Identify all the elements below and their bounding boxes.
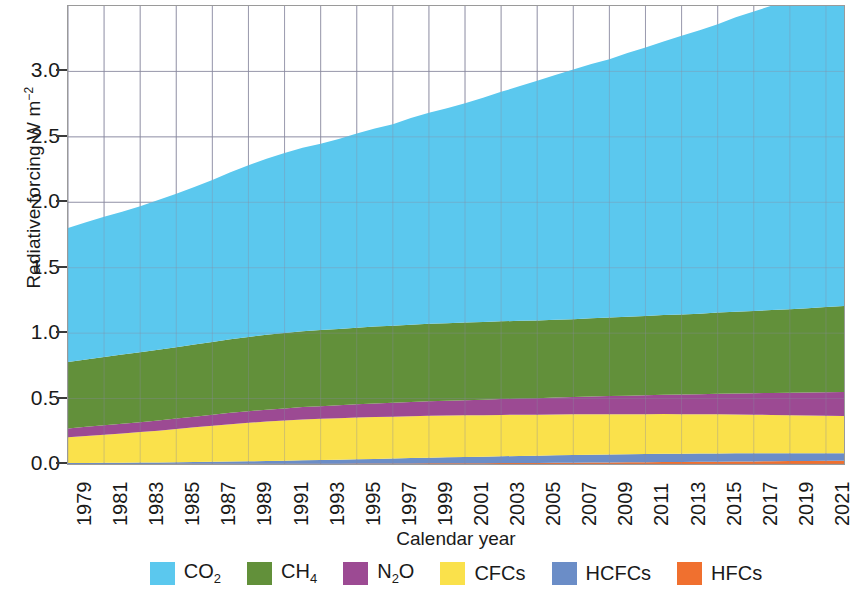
x-tick-label: 1985 xyxy=(182,482,202,527)
legend-swatch-icon xyxy=(552,562,577,585)
legend-swatch-icon xyxy=(677,562,702,585)
y-tick-label: 1.5 xyxy=(14,256,60,277)
legend-label: CO2 xyxy=(184,561,221,585)
y-tick-mark xyxy=(56,331,67,333)
x-tick-label: 1997 xyxy=(399,482,419,527)
x-tick-label: 2009 xyxy=(615,482,635,527)
stacked-area-svg xyxy=(68,6,844,464)
plot-area xyxy=(67,5,845,465)
legend-item-n2o[interactable]: N2O xyxy=(343,561,414,585)
y-tick-mark xyxy=(56,135,67,137)
y-axis-tick-labels: 0.00.51.01.52.02.53.0 xyxy=(0,0,60,591)
legend-item-hcfcs[interactable]: HCFCs xyxy=(552,562,652,585)
x-axis-title-text: Calendar year xyxy=(396,528,515,549)
x-tick-label: 2001 xyxy=(471,482,491,527)
x-axis-tick-labels: 1979198119831985198719891991199319951997… xyxy=(67,468,845,530)
x-tick-label: 1991 xyxy=(291,482,311,527)
x-tick-label: 2015 xyxy=(724,482,744,527)
x-tick-label: 2005 xyxy=(543,482,563,527)
legend-label: CFCs xyxy=(474,563,525,583)
legend-swatch-icon xyxy=(247,562,272,585)
y-tick-label: 2.0 xyxy=(14,190,60,211)
legend-item-cfcs[interactable]: CFCs xyxy=(440,562,525,585)
y-tick-label: 0.5 xyxy=(14,387,60,408)
x-tick-label: 2017 xyxy=(760,482,780,527)
legend-label: HCFCs xyxy=(586,563,652,583)
legend-label: N2O xyxy=(377,561,414,585)
y-tick-label: 1.0 xyxy=(14,321,60,342)
legend-swatch-icon xyxy=(150,562,175,585)
legend-label: CH4 xyxy=(281,561,317,585)
x-tick-label: 1999 xyxy=(435,482,455,527)
x-tick-label: 1993 xyxy=(327,482,347,527)
x-tick-label: 2011 xyxy=(651,483,671,526)
x-tick-label: 2021 xyxy=(832,482,852,527)
x-tick-label: 1987 xyxy=(218,482,238,527)
legend-swatch-icon xyxy=(343,562,368,585)
y-tick-mark xyxy=(56,69,67,71)
legend-label: HFCs xyxy=(711,563,762,583)
x-tick-label: 1989 xyxy=(254,482,274,527)
legend-swatch-icon xyxy=(440,562,465,585)
x-tick-label: 1983 xyxy=(146,482,166,527)
x-tick-label: 2007 xyxy=(579,482,599,527)
legend-item-hfcs[interactable]: HFCs xyxy=(677,562,762,585)
x-tick-label: 1995 xyxy=(363,482,383,527)
x-tick-label: 2019 xyxy=(796,482,816,527)
y-tick-mark xyxy=(56,462,67,464)
x-tick-label: 2003 xyxy=(507,482,527,527)
y-tick-label: 0.0 xyxy=(14,452,60,473)
x-tick-label: 1979 xyxy=(74,482,94,527)
legend-item-co2[interactable]: CO2 xyxy=(150,561,221,585)
area-series-co2 xyxy=(68,6,844,362)
y-tick-mark xyxy=(56,200,67,202)
y-tick-label: 3.0 xyxy=(14,59,60,80)
x-tick-label: 1981 xyxy=(110,482,130,527)
legend-item-ch4[interactable]: CH4 xyxy=(247,561,317,585)
y-tick-mark xyxy=(56,397,67,399)
y-tick-mark xyxy=(56,266,67,268)
chart-legend: CO2CH4N2OCFCsHCFCsHFCs xyxy=(67,558,845,588)
x-axis-title: Calendar year xyxy=(67,528,845,550)
x-tick-label: 2013 xyxy=(688,482,708,527)
y-tick-label: 2.5 xyxy=(14,125,60,146)
